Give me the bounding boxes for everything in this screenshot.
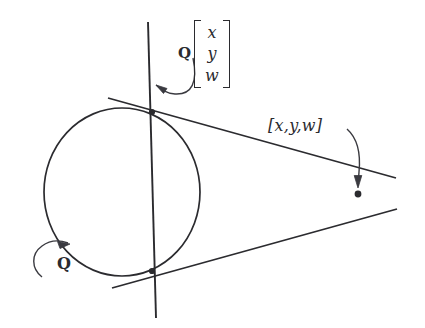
pole-vector-label: [x,y,w] xyxy=(268,118,322,134)
polar-operator-symbol: Q xyxy=(178,46,191,61)
bracket-left-icon xyxy=(194,20,201,88)
bracket-right-icon xyxy=(223,20,230,88)
column-vector-entries: x y w xyxy=(201,20,223,88)
column-vector: x y w xyxy=(194,20,230,88)
vector-entry-w: w xyxy=(205,65,219,86)
vector-entry-y: y xyxy=(207,43,216,64)
conic-label: Q xyxy=(57,256,71,272)
arrow-to-pole-point xyxy=(347,129,362,188)
tangent-point-lower-dot xyxy=(149,268,155,274)
conic-circle xyxy=(44,108,200,276)
vector-entry-x: x xyxy=(207,22,216,43)
figure-canvas: Q x y w [x,y,w] Q xyxy=(0,0,425,328)
tangent-point-upper-dot xyxy=(149,109,155,115)
pole-point-dot xyxy=(355,191,362,198)
polar-vector-label: Q x y w xyxy=(178,20,230,88)
